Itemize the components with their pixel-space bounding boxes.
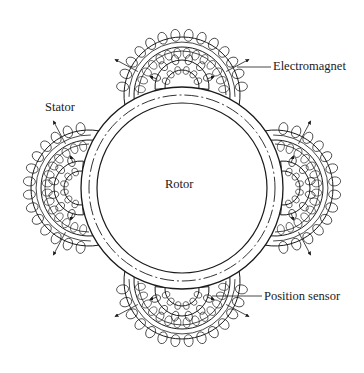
inner-pole — [281, 161, 310, 215]
rotor-label: Rotor — [165, 178, 193, 191]
inner-pole — [155, 60, 209, 89]
inner-pole — [155, 287, 209, 316]
inner-pole — [54, 161, 83, 215]
motor-diagram: Electromagnet Stator Rotor Position sens… — [0, 0, 364, 373]
electromagnet-label: Electromagnet — [273, 60, 346, 73]
stator-label: Stator — [45, 101, 75, 114]
position-sensor-label: Position sensor — [264, 290, 340, 303]
